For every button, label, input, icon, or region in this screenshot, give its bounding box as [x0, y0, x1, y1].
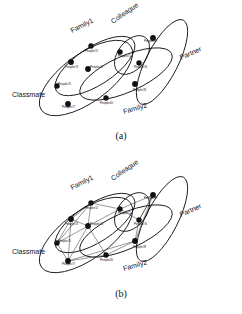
edge-p5-p7 — [57, 243, 68, 261]
community-ellipse-classmate — [27, 26, 144, 129]
node-label-p1: People#1 — [118, 54, 131, 58]
figure-container: Family1Family2ColleaguePartnerClassmate … — [0, 0, 242, 314]
community-label-partner: Partner — [179, 45, 203, 61]
community-label-family1: Family1 — [69, 16, 95, 34]
node-label-p5: People#5 — [58, 239, 71, 243]
node-label-p7: People#7 — [62, 105, 75, 109]
community-label-colleague: Colleague — [110, 1, 140, 26]
node-label-p2: People#2 — [85, 49, 98, 53]
node-label-p3: People#3 — [65, 222, 78, 226]
node-label-p8: People#8 — [133, 88, 146, 92]
node-label-p9: People#9 — [144, 196, 157, 200]
community-label-family1: Family1 — [69, 173, 95, 191]
node-p10 — [103, 95, 108, 100]
community-label-partner: Partner — [179, 202, 203, 218]
community-label-classmate: Classmate — [12, 91, 45, 98]
node-label-p8: People#8 — [133, 245, 146, 249]
node-label-p1: People#1 — [118, 211, 131, 215]
node-label-p6: People#6 — [134, 222, 147, 226]
panel-a-caption: (a) — [0, 130, 242, 141]
node-label-p4: People#4 — [90, 65, 103, 69]
community-label-classmate: Classmate — [12, 248, 45, 255]
group-ellipses-a — [27, 13, 197, 130]
node-label-p5: People#5 — [58, 82, 71, 86]
node-label-p3: People#3 — [65, 65, 78, 69]
node-p2 — [88, 200, 93, 205]
panel-b-caption: (b) — [0, 288, 242, 299]
node-label-p10: People10 — [100, 101, 113, 105]
node-label-p7: People#7 — [62, 262, 75, 266]
community-label-colleague: Colleague — [110, 158, 140, 183]
community-label-family2: Family2 — [122, 258, 148, 272]
panel-a-canvas: Family1Family2ColleaguePartnerClassmate … — [0, 0, 242, 140]
node-p10 — [103, 252, 108, 257]
group-ellipses-b — [27, 170, 197, 287]
node-p8 — [132, 238, 138, 244]
community-ellipse-classmate — [27, 183, 144, 286]
node-p8 — [132, 81, 138, 87]
panel-b-canvas: Family1Family2ColleaguePartnerClassmate … — [0, 157, 242, 297]
node-label-p4: People#4 — [90, 222, 103, 226]
panel-b: Family1Family2ColleaguePartnerClassmate … — [0, 157, 242, 314]
node-label-p6: People#6 — [134, 65, 147, 69]
panel-a: Family1Family2ColleaguePartnerClassmate … — [0, 0, 242, 157]
node-label-p9: People#9 — [144, 39, 157, 43]
node-label-p2: People#2 — [85, 206, 98, 210]
community-label-family2: Family2 — [122, 101, 148, 115]
node-label-p10: People10 — [100, 258, 113, 262]
node-p2 — [88, 43, 93, 48]
edge-p8-p10 — [106, 241, 135, 255]
